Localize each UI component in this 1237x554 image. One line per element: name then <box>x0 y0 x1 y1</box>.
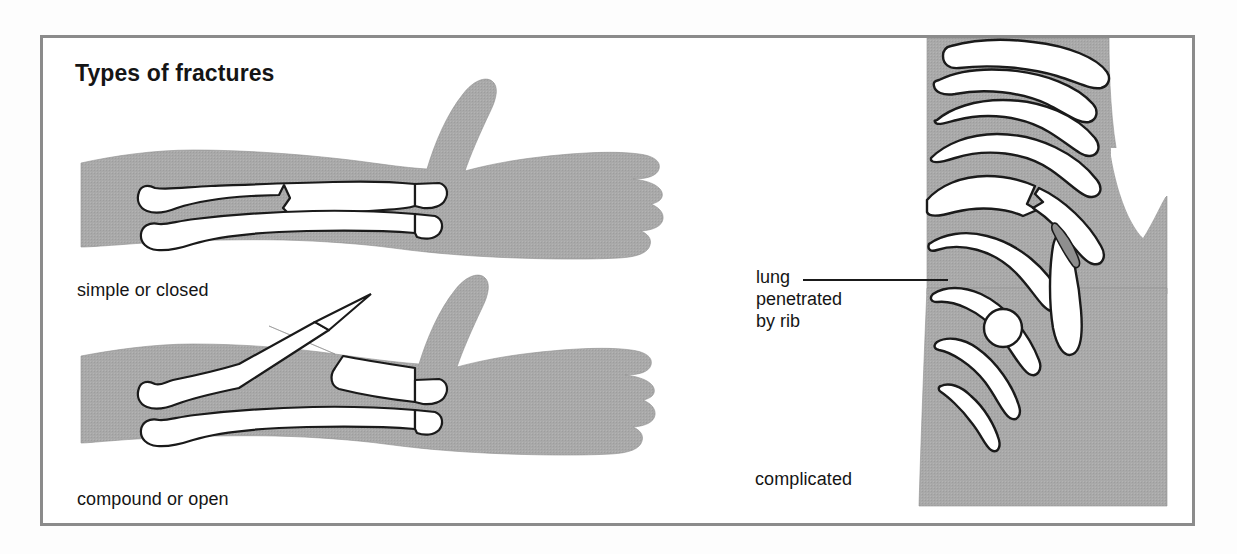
arm-silhouette-compound <box>81 275 655 455</box>
figure-root: Types of fractures <box>0 0 1237 554</box>
annotation-lung-line-3: by rib <box>756 310 842 332</box>
arm-silhouette-simple <box>81 79 663 259</box>
torso-silhouette <box>927 38 1167 294</box>
panel-simple-closed-art <box>81 79 663 259</box>
wrist-bone-lower-simple <box>415 214 442 239</box>
lung-penetration-point <box>984 309 1022 347</box>
rib-1 <box>943 40 1109 88</box>
costal-cartilage <box>1052 223 1080 268</box>
upper-bone-proximal-fragment-compound <box>138 322 329 408</box>
annotation-lung-penetrated-by-rib: lung penetrated by rib <box>756 266 842 332</box>
rib-7 <box>931 288 1040 375</box>
torso-silhouette-lower <box>919 288 1167 506</box>
rib-6 <box>928 233 1062 311</box>
rib-4 <box>931 134 1100 197</box>
figure-frame: Types of fractures <box>40 35 1195 526</box>
page-title: Types of fractures <box>75 60 275 87</box>
annotation-lung-line-2: penetrated <box>756 288 842 310</box>
lower-bone-simple <box>141 211 415 250</box>
caption-complicated: complicated <box>755 469 852 490</box>
upper-bone-distal-fragment-compound <box>332 356 415 402</box>
sternum <box>1050 232 1082 355</box>
rib-2 <box>934 69 1097 122</box>
panel-complicated-art <box>803 38 1167 506</box>
rib-group <box>927 40 1109 451</box>
wrist-bone-upper-compound <box>415 379 447 404</box>
armpit-notch <box>1111 148 1167 238</box>
wrist-bone-lower-compound <box>415 410 442 435</box>
upper-bone-simple <box>138 182 415 218</box>
rib-3 <box>935 100 1099 156</box>
illustration-canvas <box>43 38 1198 529</box>
caption-compound-or-open: compound or open <box>77 489 229 510</box>
rib-5-fractured-anterior <box>1033 188 1104 264</box>
caption-simple-or-closed: simple or closed <box>77 280 209 301</box>
rib-5-fractured-posterior <box>927 176 1037 216</box>
rib-9 <box>939 384 1000 451</box>
lower-bone-compound <box>141 407 415 446</box>
wrist-bone-upper-simple <box>415 183 447 208</box>
rib-8 <box>935 339 1020 420</box>
panel-compound-open-art <box>81 275 655 455</box>
bone-spike-compound <box>315 294 371 330</box>
annotation-lung-line-1: lung <box>756 266 842 288</box>
